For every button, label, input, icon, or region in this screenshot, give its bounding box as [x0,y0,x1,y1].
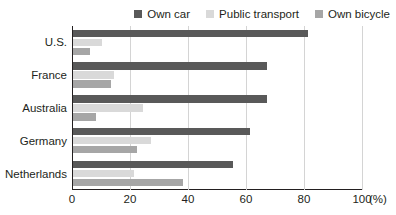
bar [73,48,90,56]
bar [73,71,114,79]
legend-entry-own-car: Own car [134,8,190,20]
category-row: Germany [72,124,362,157]
bar [73,161,233,169]
category-row: U.S. [72,26,362,59]
legend-swatch-own-car [134,10,142,18]
category-row: France [72,59,362,92]
x-tick-label: 40 [182,192,195,206]
bar [73,179,183,187]
bar [73,39,102,47]
gridline-100 [362,26,363,190]
bar [73,30,308,38]
bar [73,62,267,70]
category-label: Germany [20,134,67,147]
bar [73,95,267,103]
x-tick-label: 20 [124,192,137,206]
bar [73,128,250,136]
legend-entry-public-transport: Public transport [206,8,299,20]
x-axis-unit-label: (%) [369,192,387,206]
bar [73,170,134,178]
bar [73,80,111,88]
bar [73,113,96,121]
x-tick-label: 60 [240,192,253,206]
category-label: Australia [22,101,67,114]
legend-label-own-car: Own car [147,8,190,20]
legend-label-own-bicycle: Own bicycle [328,8,390,20]
category-row: Australia [72,92,362,125]
x-tick-label: 80 [298,192,311,206]
bar [73,104,143,112]
x-axis-tick-labels: 020406080100(%) [0,192,396,210]
legend-label-public-transport: Public transport [219,8,299,20]
chart-legend: Own car Public transport Own bicycle [0,5,396,23]
legend-swatch-own-bicycle [315,10,323,18]
category-row: Netherlands [72,157,362,190]
plot-area: U.S.FranceAustraliaGermanyNetherlands [72,26,362,190]
legend-swatch-public-transport [206,10,214,18]
category-label: U.S. [45,36,67,49]
category-label: Netherlands [5,167,67,180]
grouped-bar-chart: Own car Public transport Own bicycle U.S… [0,0,396,215]
bar [73,146,137,154]
legend-entry-own-bicycle: Own bicycle [315,8,390,20]
category-label: France [31,69,67,82]
bar [73,137,151,145]
x-tick-label: 0 [69,192,75,206]
